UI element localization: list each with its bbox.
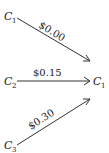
edge-c3-to-c1: $0.30 <box>17 99 90 145</box>
arrow-line <box>17 18 90 61</box>
node-subscript: 1 <box>101 82 105 90</box>
edge-cost-label: $0.30 <box>26 107 56 132</box>
node-subscript: 1 <box>12 17 16 25</box>
node-c1-destination: C 1 <box>93 75 105 90</box>
node-c3-source: C 3 <box>4 139 16 153</box>
node-subscript: 3 <box>12 146 16 153</box>
node-c1-source: C 1 <box>4 10 16 25</box>
arrowhead-icon <box>83 99 90 105</box>
edge-cost-label: $0.15 <box>33 67 62 78</box>
edge-cost-label: $0.00 <box>37 19 67 43</box>
edge-c2-to-c1: $0.15 <box>17 67 90 85</box>
conversion-cost-diagram: C 1 C 2 C 3 C 1 $0.00 $0.15 $0.30 <box>0 0 109 153</box>
node-c2-source: C 2 <box>4 75 16 90</box>
node-subscript: 2 <box>12 82 16 90</box>
edge-c1-to-c1: $0.00 <box>17 18 90 61</box>
